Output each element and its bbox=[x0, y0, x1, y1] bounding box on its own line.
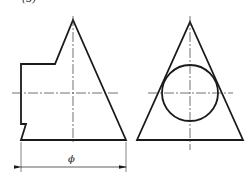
diameter-label: ϕ bbox=[68, 153, 75, 164]
front-view bbox=[12, 16, 126, 172]
side-view bbox=[137, 16, 243, 150]
technical-drawing bbox=[0, 0, 251, 183]
front-view-outline bbox=[21, 20, 126, 140]
